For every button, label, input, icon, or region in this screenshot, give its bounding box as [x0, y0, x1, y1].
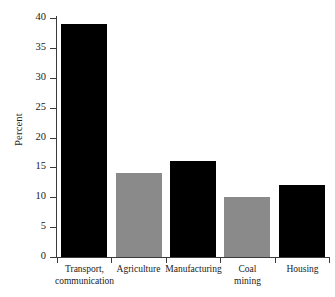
x-axis-category-label-line1: Manufacturing [165, 264, 221, 274]
x-axis-category-label: Agriculture [107, 264, 170, 276]
x-axis-tick-mark [111, 257, 112, 263]
bar [224, 197, 270, 257]
x-axis-category-label-line1: Agriculture [117, 264, 161, 274]
bar [170, 161, 216, 257]
x-axis-tick-mark [329, 257, 330, 263]
x-axis-category-label-line2: communication [53, 276, 116, 288]
x-axis-category-label-line1: Coal [239, 264, 257, 274]
x-axis-category-label-line1: Housing [286, 264, 318, 274]
bar-chart-figure: Percent 0510152025303540 Transport,commu… [0, 0, 335, 297]
x-axis-tick-mark [220, 257, 221, 263]
bar [279, 185, 325, 257]
bar [116, 173, 162, 257]
y-axis-tick-mark [50, 257, 57, 258]
x-axis-tick-mark [57, 257, 58, 263]
x-axis-category-labels: Transport,communicationAgricultureManufa… [0, 264, 335, 297]
bars-layer [0, 0, 335, 257]
x-axis-category-label: Housing [271, 264, 334, 276]
x-axis-category-label-line2: mining [216, 276, 279, 288]
x-axis-category-label: Coalmining [216, 264, 279, 287]
x-axis-tick-mark [275, 257, 276, 263]
bar [61, 24, 107, 257]
x-axis-tick-mark [166, 257, 167, 263]
x-axis-category-label-line1: Transport, [65, 264, 104, 274]
x-axis-line [56, 257, 329, 258]
